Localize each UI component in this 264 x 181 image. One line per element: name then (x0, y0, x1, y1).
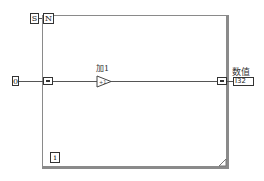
left-shift-register-icon[interactable] (43, 77, 53, 85)
input-constant[interactable]: 0 (12, 76, 19, 86)
increment-node-label: 加1 (96, 62, 109, 73)
wire-to-right-register (111, 81, 218, 82)
right-shift-register-icon[interactable] (217, 77, 227, 85)
indicator-type: I32 (235, 77, 246, 85)
svg-text:+1: +1 (99, 79, 106, 85)
resize-handle-icon[interactable] (218, 158, 227, 167)
wire-to-increment (53, 81, 97, 82)
output-indicator[interactable]: I32 (233, 77, 254, 86)
iteration-terminal[interactable]: i (50, 152, 60, 163)
increment-triangle-icon[interactable]: +1 (96, 75, 112, 88)
count-source-constant[interactable]: S (30, 13, 39, 24)
count-terminal[interactable]: N (43, 13, 54, 24)
input-wire (19, 81, 44, 82)
loop-structure-frame[interactable] (42, 15, 229, 169)
